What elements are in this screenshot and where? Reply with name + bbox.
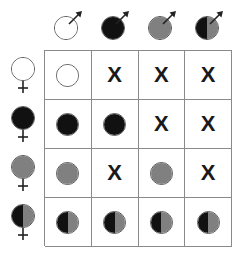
- disc-half-left: [151, 163, 162, 184]
- male-symbol-icon: [99, 9, 131, 41]
- female-cross-icon: [16, 178, 30, 191]
- female-symbol-icon: [9, 204, 37, 240]
- matrix-cell-r1c3[interactable]: X: [139, 51, 186, 100]
- matrix-cell-r2c1[interactable]: [45, 100, 92, 149]
- disc-half-right: [161, 163, 172, 184]
- disc-half-left: [57, 212, 68, 233]
- column-header-male-black[interactable]: [91, 4, 138, 46]
- offspring-disc-icon: [56, 211, 79, 234]
- female-symbol-icon: [9, 155, 37, 191]
- disc-half-right: [23, 107, 34, 129]
- matrix-row: XXX: [45, 51, 232, 100]
- female-symbol-icon: [9, 106, 37, 142]
- offspring-disc-icon: [56, 113, 79, 136]
- disc-half-right: [208, 212, 219, 233]
- disc-half-right: [115, 114, 126, 135]
- column-header-male-half[interactable]: [185, 4, 232, 46]
- offspring-disc-icon: [103, 113, 126, 136]
- matrix-cell-r3c1[interactable]: [45, 149, 92, 198]
- disc-half-right: [113, 17, 124, 39]
- incompatible-cross-icon: X: [201, 113, 216, 135]
- offspring-disc-icon: [56, 64, 79, 87]
- female-cross-icon: [16, 80, 30, 93]
- disc-half-left: [104, 212, 115, 233]
- matrix-cell-r1c4[interactable]: X: [185, 51, 232, 100]
- disc-half-right: [23, 58, 34, 80]
- matrix-cell-r3c2[interactable]: X: [92, 149, 139, 198]
- parent-disc-icon: [11, 204, 35, 228]
- male-symbol-icon: [193, 9, 225, 41]
- offspring-disc-icon: [150, 211, 173, 234]
- incompatible-cross-icon: X: [107, 162, 122, 184]
- offspring-disc-icon: [56, 162, 79, 185]
- disc-half-left: [151, 212, 162, 233]
- row-header-column: [2, 50, 44, 246]
- cross-compatibility-matrix: XXXXXXX: [0, 0, 243, 256]
- matrix-cell-r2c3[interactable]: X: [139, 100, 186, 149]
- matrix-cell-r1c1[interactable]: [45, 51, 92, 100]
- disc-half-left: [57, 114, 68, 135]
- disc-half-left: [198, 212, 209, 233]
- row-header-female-half[interactable]: [2, 197, 44, 246]
- matrix-cell-r4c2[interactable]: [92, 198, 139, 247]
- column-header-male-white[interactable]: [44, 4, 91, 46]
- matrix-cell-r2c4[interactable]: X: [185, 100, 232, 149]
- disc-half-left: [196, 17, 207, 39]
- matrix-cell-r3c3[interactable]: [139, 149, 186, 198]
- disc-half-right: [66, 17, 77, 39]
- matrix-cell-r1c2[interactable]: X: [92, 51, 139, 100]
- disc-half-right: [115, 212, 126, 233]
- offspring-disc-icon: [197, 211, 220, 234]
- parent-disc-icon: [11, 106, 35, 130]
- disc-half-left: [149, 17, 160, 39]
- matrix-cell-r3c4[interactable]: X: [185, 149, 232, 198]
- matrix-grid: XXXXXXX: [44, 50, 232, 246]
- disc-half-right: [23, 156, 34, 178]
- matrix-row: XX: [45, 149, 232, 198]
- parent-disc-icon: [11, 155, 35, 179]
- disc-half-right: [207, 17, 218, 39]
- matrix-cell-r4c4[interactable]: [185, 198, 232, 247]
- row-header-female-black[interactable]: [2, 99, 44, 148]
- disc-half-left: [104, 114, 115, 135]
- parent-disc-icon: [195, 16, 219, 40]
- incompatible-cross-icon: X: [107, 64, 122, 86]
- matrix-cell-r2c2[interactable]: [92, 100, 139, 149]
- parent-disc-icon: [101, 16, 125, 40]
- disc-half-right: [160, 17, 171, 39]
- incompatible-cross-icon: X: [154, 64, 169, 86]
- disc-half-right: [68, 114, 79, 135]
- offspring-disc-icon: [103, 211, 126, 234]
- incompatible-cross-icon: X: [154, 113, 169, 135]
- male-symbol-icon: [52, 9, 84, 41]
- female-cross-icon: [16, 227, 30, 240]
- female-symbol-icon: [9, 57, 37, 93]
- disc-half-left: [57, 65, 68, 86]
- parent-disc-icon: [148, 16, 172, 40]
- column-header-male-gray[interactable]: [138, 4, 185, 46]
- disc-half-left: [55, 17, 66, 39]
- incompatible-cross-icon: X: [201, 162, 216, 184]
- disc-half-right: [68, 65, 79, 86]
- row-header-female-white[interactable]: [2, 50, 44, 99]
- disc-half-right: [68, 212, 79, 233]
- matrix-cell-r4c1[interactable]: [45, 198, 92, 247]
- matrix-row: [45, 198, 232, 247]
- disc-half-left: [12, 58, 23, 80]
- parent-disc-icon: [54, 16, 78, 40]
- disc-half-right: [68, 163, 79, 184]
- disc-half-left: [12, 156, 23, 178]
- incompatible-cross-icon: X: [201, 64, 216, 86]
- female-cross-icon: [16, 129, 30, 142]
- matrix-cell-r4c3[interactable]: [139, 198, 186, 247]
- male-symbol-icon: [146, 9, 178, 41]
- offspring-disc-icon: [150, 162, 173, 185]
- disc-half-left: [102, 17, 113, 39]
- column-header-row: [44, 4, 232, 46]
- disc-half-left: [12, 107, 23, 129]
- row-header-female-gray[interactable]: [2, 148, 44, 197]
- disc-half-right: [161, 212, 172, 233]
- disc-half-left: [57, 163, 68, 184]
- disc-half-left: [12, 205, 23, 227]
- parent-disc-icon: [11, 57, 35, 81]
